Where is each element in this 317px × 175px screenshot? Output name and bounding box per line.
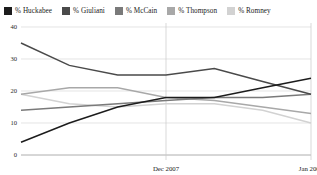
y-axis-ticks: 010203040: [10, 23, 17, 158]
legend-label: % Huckabee: [15, 7, 52, 15]
legend-label: % Giuliani: [73, 7, 105, 15]
y-axis-tick-label: 20: [10, 87, 17, 94]
legend-swatch-romney: [227, 7, 235, 15]
legend-swatch-giuliani: [62, 7, 70, 15]
legend-label: % McCain: [126, 7, 157, 15]
vertical-gridlines: [166, 23, 311, 160]
y-axis-tick-label: 40: [10, 23, 17, 30]
poll-line-chart: % Huckabee % Giuliani % McCain % Thompso…: [0, 0, 317, 175]
y-axis-tick-label: 10: [10, 119, 17, 126]
x-axis-tick-label: Dec 2007: [153, 165, 180, 172]
x-axis-ticks: Dec 2007Jan 2008: [153, 165, 317, 172]
chart-svg: 010203040 Dec 2007Jan 2008: [0, 20, 317, 175]
legend-item[interactable]: % McCain: [115, 7, 157, 15]
legend-swatch-huckabee: [4, 7, 12, 15]
legend-swatch-thompson: [167, 7, 175, 15]
plot-area: 010203040 Dec 2007Jan 2008: [0, 20, 317, 175]
chart-legend: % Huckabee % Giuliani % McCain % Thompso…: [0, 0, 317, 22]
legend-swatch-mccain: [115, 7, 123, 15]
y-axis-tick-label: 30: [10, 55, 17, 62]
legend-item[interactable]: % Romney: [227, 7, 271, 15]
legend-item[interactable]: % Thompson: [167, 7, 217, 15]
legend-item[interactable]: % Giuliani: [62, 7, 105, 15]
legend-label: % Thompson: [178, 7, 217, 15]
legend-item[interactable]: % Huckabee: [4, 7, 52, 15]
x-axis-tick-label: Jan 2008: [299, 165, 317, 172]
legend-label: % Romney: [238, 7, 271, 15]
y-axis-tick-label: 0: [14, 151, 18, 158]
